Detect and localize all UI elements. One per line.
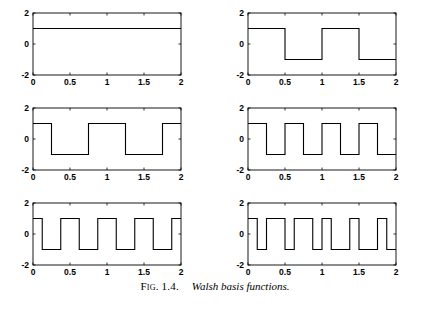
figure-caption: Fig. 1.4.Walsh basis functions.	[0, 279, 430, 293]
x-tick-label: 2	[179, 267, 184, 277]
walsh-waveform	[33, 124, 181, 155]
y-tick-label: -2	[236, 260, 244, 270]
y-tick-label: -2	[21, 70, 29, 80]
plot-frame	[33, 108, 181, 170]
y-tick-label: 2	[239, 198, 244, 208]
x-tick-label: 1.5	[138, 77, 150, 87]
figure-caption-text: Walsh basis functions.	[192, 280, 290, 292]
x-tick-label: 1	[320, 267, 325, 277]
figure-container: 00.511.5220-2 00.511.5220-2 00.511.5220-…	[0, 0, 430, 309]
y-tick-label: -2	[236, 70, 244, 80]
walsh-waveform	[248, 124, 396, 155]
y-tick-label: 2	[239, 103, 244, 113]
y-tick-label: -2	[21, 165, 29, 175]
x-tick-label: 0.5	[279, 77, 291, 87]
x-tick-label: 1	[105, 172, 110, 182]
x-tick-label: 2	[179, 172, 184, 182]
x-tick-label: 1	[320, 77, 325, 87]
x-tick-label: 0.5	[64, 172, 76, 182]
y-tick-label: 0	[24, 39, 29, 49]
y-tick-label: -2	[236, 165, 244, 175]
walsh-plot-0: 00.511.5220-2	[0, 4, 215, 99]
y-tick-label: 2	[24, 198, 29, 208]
walsh-panel-0: 00.511.5220-2	[0, 4, 215, 99]
walsh-plot-4: 00.511.5220-2	[0, 194, 215, 289]
x-tick-label: 2	[394, 77, 399, 87]
walsh-panel-4: 00.511.5220-2	[0, 194, 215, 289]
walsh-plot-2: 00.511.5220-2	[0, 99, 215, 194]
x-tick-label: 0.5	[64, 267, 76, 277]
y-tick-label: -2	[21, 260, 29, 270]
x-tick-label: 1.5	[138, 267, 150, 277]
x-tick-label: 0.5	[279, 267, 291, 277]
x-tick-label: 0	[31, 77, 36, 87]
walsh-panel-2: 00.511.5220-2	[0, 99, 215, 194]
x-tick-label: 1	[320, 172, 325, 182]
y-tick-label: 0	[239, 229, 244, 239]
walsh-waveform	[248, 219, 396, 250]
x-tick-label: 1.5	[353, 172, 365, 182]
x-tick-label: 0	[31, 267, 36, 277]
x-tick-label: 0	[246, 267, 251, 277]
figure-caption-label: Fig. 1.4.	[140, 280, 178, 292]
x-tick-label: 1.5	[138, 172, 150, 182]
x-tick-label: 1	[105, 77, 110, 87]
walsh-plot-3: 00.511.5220-2	[215, 99, 430, 194]
y-tick-label: 2	[24, 8, 29, 18]
walsh-panel-5: 00.511.5220-2	[215, 194, 430, 289]
walsh-panel-grid: 00.511.5220-2 00.511.5220-2 00.511.5220-…	[0, 4, 430, 276]
x-tick-label: 0	[246, 172, 251, 182]
y-tick-label: 2	[239, 8, 244, 18]
x-tick-label: 2	[394, 267, 399, 277]
y-tick-label: 0	[24, 229, 29, 239]
y-tick-label: 0	[239, 39, 244, 49]
x-tick-label: 0	[246, 77, 251, 87]
y-tick-label: 2	[24, 103, 29, 113]
x-tick-label: 0.5	[64, 77, 76, 87]
plot-frame	[33, 203, 181, 265]
x-tick-label: 0.5	[279, 172, 291, 182]
y-tick-label: 0	[24, 134, 29, 144]
walsh-waveform	[33, 219, 181, 250]
walsh-panel-3: 00.511.5220-2	[215, 99, 430, 194]
walsh-plot-1: 00.511.5220-2	[215, 4, 430, 99]
x-tick-label: 2	[179, 77, 184, 87]
walsh-panel-1: 00.511.5220-2	[215, 4, 430, 99]
x-tick-label: 2	[394, 172, 399, 182]
walsh-plot-5: 00.511.5220-2	[215, 194, 430, 289]
x-tick-label: 1.5	[353, 267, 365, 277]
x-tick-label: 1	[105, 267, 110, 277]
walsh-waveform	[248, 29, 396, 60]
y-tick-label: 0	[239, 134, 244, 144]
plot-frame	[33, 13, 181, 75]
x-tick-label: 1.5	[353, 77, 365, 87]
x-tick-label: 0	[31, 172, 36, 182]
